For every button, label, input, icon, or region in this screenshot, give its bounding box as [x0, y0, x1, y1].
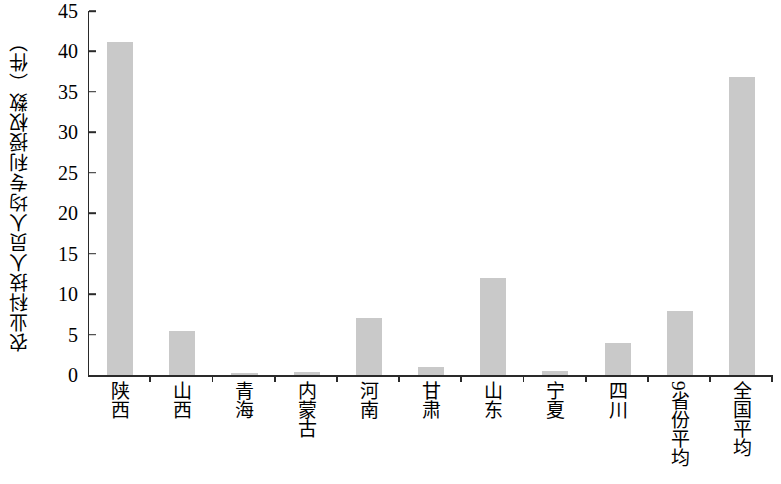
x-axis-label-slot: 四川	[586, 379, 648, 484]
y-axis-tick-label: 0	[1, 365, 89, 385]
x-axis-label-slot: 9省份平均	[648, 379, 710, 484]
x-axis-label-slot: 内蒙古	[275, 379, 337, 484]
bar-slot	[587, 11, 649, 375]
bar[interactable]	[169, 331, 195, 375]
x-axis-label: 陕西	[110, 381, 129, 419]
y-axis-tick-label: 30	[1, 122, 89, 142]
x-axis-label: 甘肃	[421, 381, 440, 419]
bar-slot	[213, 11, 275, 375]
y-axis-tick-label: 15	[1, 244, 89, 264]
bar[interactable]	[542, 371, 568, 375]
bar[interactable]	[356, 318, 382, 375]
bar-slot	[400, 11, 462, 375]
y-axis-tick-label: 10	[1, 284, 89, 304]
plot-area: 454035302520151050	[88, 11, 773, 377]
bar-slot	[649, 11, 711, 375]
bar[interactable]	[294, 372, 320, 375]
x-axis-label-slot: 宁夏	[523, 379, 585, 484]
y-axis-tick-label: 5	[1, 325, 89, 345]
bar[interactable]	[231, 373, 257, 375]
x-axis-label: 河南	[358, 381, 377, 419]
x-axis-label: 内蒙古	[296, 381, 315, 438]
bar-chart: 农业科技人员人均专利授权数（件） 454035302520151050 陕西山西…	[0, 0, 781, 484]
x-axis-label-slot: 陕西	[88, 379, 150, 484]
x-axis-label-slot: 山西	[150, 379, 212, 484]
bar-slot	[338, 11, 400, 375]
bar-series	[89, 11, 773, 375]
x-axis-label-slot: 全国平均	[710, 379, 772, 484]
x-axis-label: 青海	[234, 381, 253, 419]
y-axis-tick-label: 20	[1, 203, 89, 223]
bar[interactable]	[480, 278, 506, 375]
bar[interactable]	[729, 77, 755, 375]
bar[interactable]	[107, 42, 133, 375]
y-axis-tick-label: 40	[1, 41, 89, 61]
x-axis-label: 四川	[607, 381, 626, 419]
x-axis-label-slot: 青海	[212, 379, 274, 484]
x-axis-label: 山东	[483, 381, 502, 419]
x-axis-labels: 陕西山西青海内蒙古河南甘肃山东宁夏四川9省份平均全国平均	[88, 379, 772, 484]
bar-slot	[711, 11, 773, 375]
x-axis-label: 宁夏	[545, 381, 564, 419]
bar[interactable]	[667, 311, 693, 375]
y-axis-tick-label: 45	[1, 1, 89, 21]
bar-slot	[89, 11, 151, 375]
bar-slot	[151, 11, 213, 375]
x-axis-label-slot: 河南	[337, 379, 399, 484]
x-axis-label-slot: 甘肃	[399, 379, 461, 484]
bar[interactable]	[418, 367, 444, 375]
bar[interactable]	[605, 343, 631, 375]
bar-slot	[462, 11, 524, 375]
bar-slot	[276, 11, 338, 375]
bar-slot	[524, 11, 586, 375]
x-axis-label: 山西	[172, 381, 191, 419]
y-axis-tick-label: 35	[1, 82, 89, 102]
x-axis-label: 全国平均	[731, 381, 750, 457]
x-axis-label-slot: 山东	[461, 379, 523, 484]
y-axis-tick-label: 25	[1, 163, 89, 183]
x-axis-label: 9省份平均	[669, 381, 688, 467]
